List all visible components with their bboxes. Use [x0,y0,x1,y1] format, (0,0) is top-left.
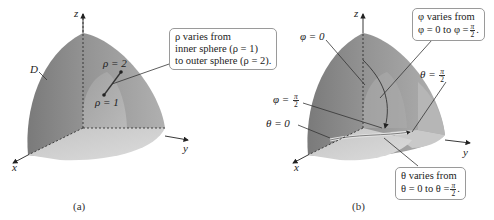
caption-b: (b) [352,200,365,212]
theta-half-pi-label: θ = π2 [420,68,446,83]
theta-zero-label: θ = 0 [266,118,290,129]
fraction-pi-over-2: π2 [450,182,456,197]
z-axis-label-b: z [354,8,358,19]
callout-phi-line1: φ varies from [418,11,479,23]
callout-rho-line3: to outer sphere (ρ = 2). [175,55,271,67]
z-axis-label-a: z [74,8,78,19]
callout-phi: φ varies from φ = 0 to φ =π2. [412,8,485,41]
fraction-pi-over-2: π2 [470,23,476,38]
phi-half-pi-label: φ = π2 [273,93,300,108]
rho-inner-label: ρ = 1 [95,97,119,108]
fraction-pi-over-2: π2 [439,68,445,83]
panel-a [13,14,188,163]
x-axis-label-a: x [12,162,17,173]
phi-zero-label: φ = 0 [300,31,325,42]
y-axis-label-a: y [183,143,188,154]
callout-theta-line2: θ = 0 to θ =π2. [401,182,460,197]
x-axis-label-b: x [294,162,299,173]
callout-theta: θ varies from θ = 0 to θ =π2. [395,167,466,200]
callout-phi-line2: φ = 0 to φ =π2. [418,23,479,38]
fraction-pi-over-2: π2 [293,93,299,108]
region-d-label: D [30,64,38,75]
callout-rho-line1: ρ varies from [175,31,271,43]
y-axis-b [445,140,470,143]
callout-rho: ρ varies from inner sphere (ρ = 1) to ou… [169,28,277,70]
rho-outer-label: ρ = 2 [103,58,127,69]
callout-rho-line2: inner sphere (ρ = 1) [175,43,271,55]
caption-a: (a) [73,200,85,212]
y-axis-label-b: y [463,147,468,158]
